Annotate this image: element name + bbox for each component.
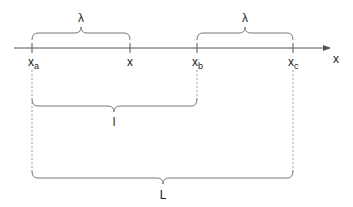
brace-lambda-left [32, 27, 130, 40]
brace-label-lambda-left: λ [78, 11, 84, 25]
dashed-guides [32, 70, 293, 174]
brace-lambda-right [197, 27, 293, 40]
tick-label-xa: xa [28, 55, 39, 71]
brace-L [32, 171, 293, 184]
brace-label-L: L [160, 188, 167, 202]
tick-label-xb: xb [192, 55, 203, 71]
brace-l [32, 99, 197, 112]
brace-label-l: l [113, 115, 116, 129]
interval-diagram: x xa x xb xc λ λ l L [0, 0, 353, 207]
x-axis-label: x [333, 52, 339, 66]
brace-label-lambda-right: λ [242, 11, 248, 25]
tick-label-x: x [127, 55, 133, 69]
tick-label-xc: xc [288, 55, 299, 71]
